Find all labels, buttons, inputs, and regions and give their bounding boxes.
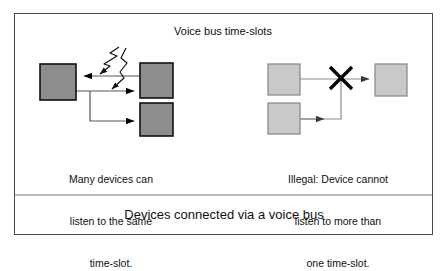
timeslot-pointer-upper-icon [100, 47, 119, 74]
right-caption-line-1: Illegal: Device cannot [258, 173, 418, 187]
figure-caption-label: Devices connected via a voice bus [15, 206, 433, 223]
listener-device-box [40, 64, 76, 100]
source-device-b-box [268, 103, 300, 134]
right-caption-line-3: one time-slot. [258, 257, 418, 271]
bus-branch-line [90, 91, 134, 121]
left-caption-line-3: time-slot. [36, 257, 186, 271]
timeslot-pointer-lower-icon [112, 48, 127, 89]
target-device-box [375, 64, 407, 96]
second-listener-device-box [140, 103, 173, 136]
talker-device-box [140, 63, 173, 98]
source-device-a-box [268, 64, 300, 95]
bus-title-label: Voice bus time-slots [0, 24, 446, 39]
left-caption-line-1: Many devices can [36, 173, 186, 187]
